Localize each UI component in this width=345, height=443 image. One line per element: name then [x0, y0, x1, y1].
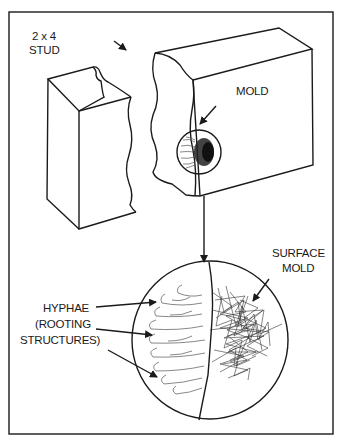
- stud-block: [47, 67, 136, 229]
- surface-mold-arrow: [253, 279, 269, 301]
- mold-diagram: 2 x 4 STUD MOLD SURFACE MOLD HYPHAE (ROO…: [0, 0, 345, 443]
- hyphae-arrow-2: [96, 329, 152, 335]
- surface-mold-mass: [210, 286, 282, 380]
- surface-mold-label-line2: MOLD: [282, 262, 314, 274]
- wall-block: [151, 28, 313, 196]
- stud-label-line1: 2 x 4: [32, 30, 57, 42]
- mold-label: MOLD: [236, 85, 268, 97]
- mold-arrow: [200, 106, 216, 124]
- hyphae-arrow-1: [96, 302, 156, 307]
- mold-spot-small: [177, 130, 221, 174]
- hyphae-label-line3: STRUCTURES): [20, 334, 101, 346]
- hyphae-arrow-3: [108, 350, 157, 377]
- stud-arrow: [114, 41, 126, 50]
- hyphae-structures: [149, 285, 205, 394]
- surface-mold-label-line1: SURFACE: [272, 247, 325, 259]
- hyphae-label-line2: (ROOTING: [35, 318, 91, 330]
- hyphae-label-line1: HYPHAE: [43, 302, 90, 314]
- stud-label-line2: STUD: [29, 44, 60, 56]
